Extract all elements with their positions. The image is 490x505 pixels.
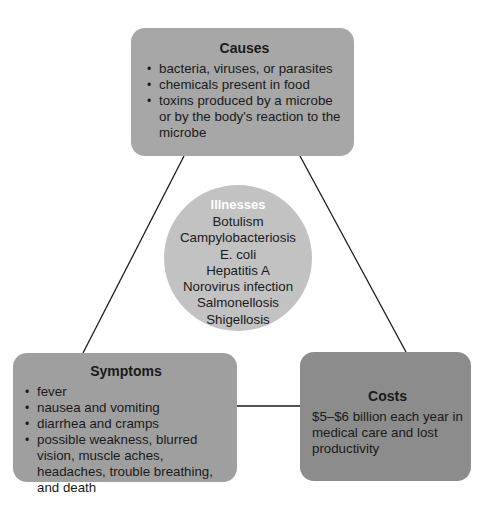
illness-item: Salmonellosis (164, 295, 312, 311)
list-item: nausea and vomiting (37, 400, 229, 416)
causes-title: Causes (145, 40, 344, 56)
illness-item: Botulism (164, 214, 312, 230)
list-item: diarrhea and cramps (37, 416, 229, 432)
list-item: bacteria, viruses, or parasites (159, 61, 344, 77)
causes-list: bacteria, viruses, or parasites chemical… (145, 61, 344, 141)
illness-item: Hepatitis A (164, 263, 312, 279)
illnesses-title: Illnesses (164, 197, 312, 212)
costs-title: Costs (312, 388, 463, 404)
symptoms-list: fever nausea and vomiting diarrhea and c… (23, 384, 229, 496)
illness-item: Campylobacteriosis (164, 230, 312, 246)
causes-box: Causes bacteria, viruses, or parasites c… (131, 28, 354, 156)
list-item: possible weakness, blurred vision, muscl… (37, 432, 229, 496)
illness-item: E. coli (164, 247, 312, 263)
costs-box: Costs $5–$6 billion each year in medical… (300, 352, 471, 481)
illness-item: Shigellosis (164, 312, 312, 328)
list-item: chemicals present in food (159, 77, 344, 93)
symptoms-box: Symptoms fever nausea and vomiting diarr… (13, 353, 237, 482)
connector-causes-costs (300, 156, 406, 352)
list-item: fever (37, 384, 229, 400)
symptoms-title: Symptoms (23, 363, 229, 379)
illness-item: Norovirus infection (164, 279, 312, 295)
illnesses-circle: Illnesses Botulism Campylobacteriosis E.… (164, 185, 312, 331)
costs-text: $5–$6 billion each year in medical care … (312, 409, 463, 457)
list-item: toxins produced by a microbe or by the b… (159, 93, 344, 141)
